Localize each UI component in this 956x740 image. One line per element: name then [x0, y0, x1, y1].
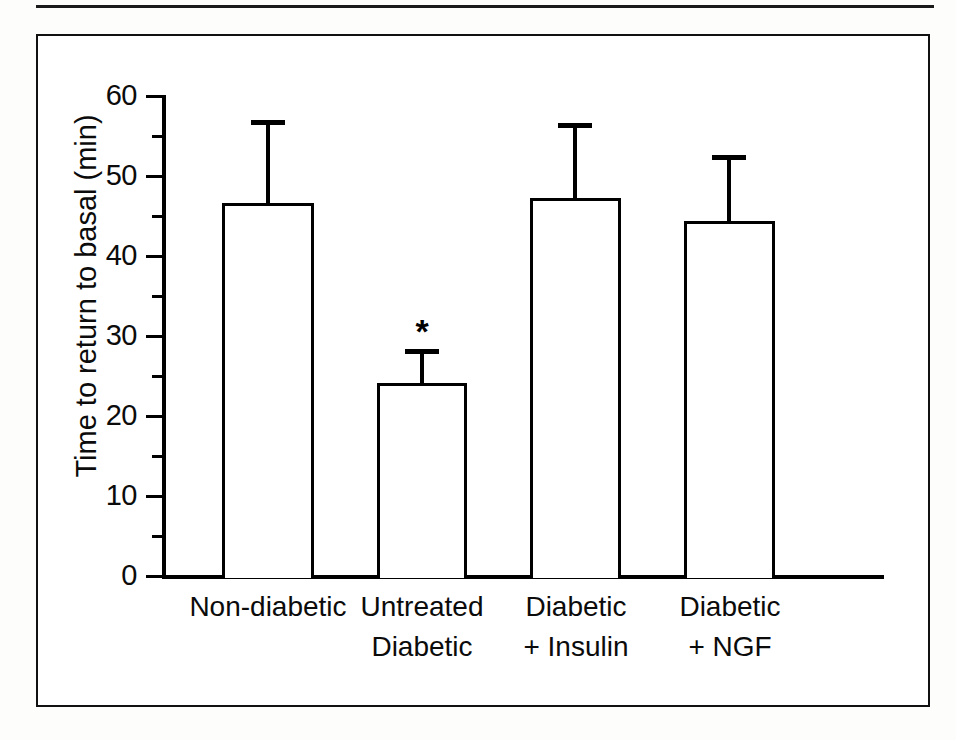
significance-asterisk: *	[402, 314, 442, 348]
error-bar-stem-diabetic-ngf	[727, 155, 731, 223]
cat-line-2: + NGF	[610, 627, 850, 667]
y-axis-line	[162, 95, 166, 578]
error-bar-cap-diabetic-ngf	[712, 155, 746, 160]
y-tick-60	[146, 95, 162, 98]
error-bar-stem-untreated-diabetic	[420, 349, 424, 385]
bar-diabetic-ngf[interactable]	[684, 221, 775, 578]
y-tick-minor-45	[152, 215, 162, 218]
y-tick-label-40: 40	[67, 241, 137, 270]
y-tick-20	[146, 415, 162, 418]
error-bar-cap-non-diabetic	[251, 120, 285, 125]
figure-page: Time to return to basal (min) 0 10 20 30…	[0, 0, 956, 740]
y-tick-minor-55	[152, 135, 162, 138]
y-tick-30	[146, 335, 162, 338]
y-tick-label-10: 10	[67, 481, 137, 510]
x-category-label-diabetic-ngf: Diabetic + NGF	[610, 587, 850, 667]
y-tick-50	[146, 175, 162, 178]
y-axis-title: Time to return to basal (min)	[71, 96, 101, 496]
y-tick-minor-35	[152, 295, 162, 298]
y-tick-minor-25	[152, 375, 162, 378]
error-bar-stem-non-diabetic	[266, 120, 270, 205]
y-tick-label-60: 60	[67, 81, 137, 110]
y-tick-10	[146, 495, 162, 498]
plot-area: Time to return to basal (min) 0 10 20 30…	[38, 36, 932, 709]
error-bar-stem-diabetic-insulin	[573, 123, 577, 200]
y-tick-minor-5	[152, 535, 162, 538]
y-tick-0	[146, 575, 162, 578]
y-tick-label-50: 50	[67, 161, 137, 190]
bar-non-diabetic[interactable]	[222, 203, 314, 578]
y-tick-label-0: 0	[67, 561, 137, 590]
bar-diabetic-insulin[interactable]	[530, 198, 621, 578]
bar-untreated-diabetic[interactable]	[377, 383, 467, 578]
y-tick-label-30: 30	[67, 321, 137, 350]
y-tick-minor-15	[152, 455, 162, 458]
cat-line-1: Diabetic	[679, 591, 780, 622]
y-tick-label-20: 20	[67, 401, 137, 430]
figure-frame: Time to return to basal (min) 0 10 20 30…	[36, 34, 930, 707]
page-top-rule	[36, 5, 934, 8]
y-tick-40	[146, 255, 162, 258]
error-bar-cap-diabetic-insulin	[558, 123, 592, 128]
